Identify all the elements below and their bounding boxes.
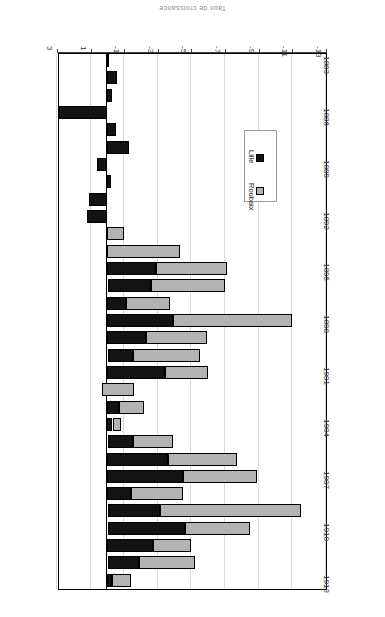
year-tick-label: 1913 [322,576,331,594]
chart-legend: RoubaixLille [244,130,277,202]
bar-segment-lille [97,158,107,171]
bar-segment-roubaix [146,331,207,344]
bar-row [59,539,326,552]
bar-segment-lille [107,401,119,414]
year-tick-label: 1904 [322,420,331,438]
value-tick-label: -11 [280,46,289,57]
bar-row [59,349,326,362]
bar-segment-roubaix [165,366,209,379]
bar-segment-roubaix [107,245,179,258]
bar-segment-lille [87,210,107,223]
bar-row [59,435,326,448]
bar-segment-lille [107,331,146,344]
year-tick-label: 1898 [322,316,331,334]
bar-segment-lille [107,470,183,483]
bar-row [59,279,326,292]
bar-row [59,574,326,587]
bar-segment-lille [108,487,132,500]
bar-segment-roubaix [113,418,121,431]
bar-row [59,297,326,310]
year-tick-label: 1883 [322,56,331,74]
bar-row [59,522,326,535]
legend-item[interactable]: Lille [245,128,276,162]
bar-row [59,383,326,396]
bar-row [59,401,326,414]
legend-label-lille: Lille [248,150,257,163]
bar-row [59,210,326,223]
bar-segment-lille [107,297,126,310]
bar-row [59,487,326,500]
bar-row [59,314,326,327]
bar-row [59,141,326,154]
legend-item[interactable]: Roubaix [245,161,276,195]
bar-row [59,453,326,466]
bar-row [59,124,326,137]
value-tick [326,49,327,53]
bar-row [59,89,326,102]
value-tick [91,49,92,53]
bar-segment-roubaix [119,401,144,414]
bar-segment-roubaix [168,453,237,466]
year-tick-label: 1910 [322,524,331,542]
bar-segment-roubaix [131,487,183,500]
chart-figure: Taux de croissance 31-1-3-5-7-9-11-13 18… [0,0,385,617]
bar-row [59,72,326,85]
value-tick-label: -1 [112,46,121,53]
bar-segment-lille [108,522,185,535]
bar-segment-roubaix [126,297,170,310]
value-tick-label: -7 [213,46,222,53]
chart-title: Taux de croissance [0,2,385,12]
bar-row [59,331,326,344]
bar-row [59,158,326,171]
bar-segment-lille [108,435,133,448]
value-tick [292,49,293,53]
bar-segment-roubaix [151,279,225,292]
bar-segment-roubaix [153,539,192,552]
bar-row [59,245,326,258]
bar-segment-lille [107,314,173,327]
bar-segment-lille [107,262,156,275]
plot-area [58,53,327,590]
bar-segment-roubaix [183,470,257,483]
value-axis: 31-1-3-5-7-9-11-13 [58,13,327,53]
bar-segment-roubaix [113,574,132,587]
bar-segment-lille [108,279,152,292]
year-tick-label: 1889 [322,160,331,178]
bar-row [59,193,326,206]
bar-segment-lille [107,54,109,67]
bar-segment-lille [107,141,129,154]
bar-segment-lille [108,89,113,102]
year-tick-label: 1892 [322,212,331,230]
bar-segment-lille [107,124,115,137]
bar-segment-roubaix [107,227,124,240]
category-axis: 1883188618891892189518981901190419071910… [329,53,375,590]
bar-segment-lille [108,505,160,518]
bar-segment-lille [107,539,152,552]
value-tick [192,49,193,53]
bar-row [59,505,326,518]
year-tick-label: 1901 [322,368,331,386]
bar-row [59,106,326,119]
bar-row [59,227,326,240]
value-tick [158,49,159,53]
value-tick-label: -3 [146,46,155,53]
bar-segment-roubaix [185,522,251,535]
value-tick-label: 1 [79,46,88,50]
bar-segment-lille [107,72,117,85]
bar-segment-lille [108,557,140,570]
year-tick-label: 1907 [322,472,331,490]
value-tick [124,49,125,53]
bar-row [59,366,326,379]
bar-segment-lille [89,193,108,206]
bar-row [59,175,326,188]
bar-segment-lille [108,453,169,466]
value-tick [225,49,226,53]
bar-segment-roubaix [139,557,195,570]
year-tick-label: 1895 [322,264,331,282]
bar-row [59,470,326,483]
bar-row [59,418,326,431]
bar-segment-lille [59,106,108,119]
value-tick [259,49,260,53]
bar-segment-lille [108,349,133,362]
bar-segment-roubaix [102,383,134,396]
